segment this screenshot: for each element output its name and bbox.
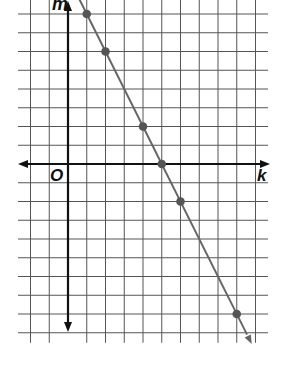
- origin-label: O: [50, 166, 63, 186]
- data-point: [157, 160, 166, 169]
- data-point: [101, 47, 110, 56]
- data-point: [139, 122, 148, 131]
- data-point: [82, 10, 91, 19]
- line-arrow-down-icon: [245, 334, 252, 344]
- y-axis-label: m: [52, 0, 68, 15]
- data-point: [176, 197, 185, 206]
- x-axis-left-arrow-icon: [18, 160, 28, 168]
- data-point: [232, 310, 241, 319]
- y-axis-down-arrow-icon: [64, 322, 72, 332]
- coordinate-graph: [0, 0, 286, 386]
- x-axis-label: k: [257, 166, 266, 186]
